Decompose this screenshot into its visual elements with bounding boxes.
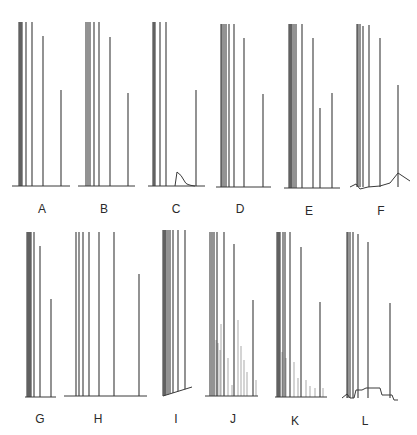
panel-label-j: J — [230, 413, 236, 425]
panel-label-c: C — [172, 203, 181, 215]
chromatogram-panel-c — [148, 22, 205, 186]
chromatogram-panel-i — [163, 230, 192, 396]
chromatogram-panel-e — [284, 24, 340, 188]
panel-label-l: L — [362, 415, 369, 427]
panel-label-i: I — [174, 413, 177, 425]
chromatogram-panel-d — [216, 24, 271, 187]
chromatogram-panel-h — [64, 232, 147, 396]
panel-label-h: H — [94, 413, 103, 425]
chromatogram-panel-g — [25, 232, 56, 397]
chromatogram-panel-b — [78, 22, 135, 186]
chromatogram-panel-f — [350, 24, 410, 189]
chromatogram-figure: ABCDEFGHIJKL — [0, 0, 417, 435]
panel-label-d: D — [236, 203, 245, 215]
panel-label-b: B — [100, 203, 108, 215]
chromatogram-panel-a — [12, 22, 70, 186]
panel-label-g: G — [35, 413, 44, 425]
panel-label-e: E — [305, 205, 313, 217]
chromatogram-panel-l — [342, 232, 398, 400]
panel-label-k: K — [291, 415, 299, 427]
chromatogram-panel-j — [205, 232, 258, 396]
panel-label-a: A — [38, 203, 46, 215]
panel-label-f: F — [377, 205, 384, 217]
chromatogram-panel-k — [275, 232, 327, 397]
chromatogram-traces — [0, 0, 417, 435]
